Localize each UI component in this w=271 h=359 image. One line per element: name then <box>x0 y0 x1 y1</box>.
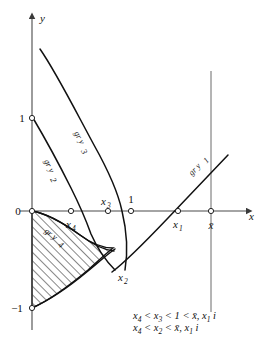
curve-tag-gr-y1: gr y 1 <box>186 154 211 180</box>
svg-text:1: 1 <box>201 155 211 165</box>
curve-tag-gr-y3: gr y 3 <box>70 129 92 155</box>
svg-text:x: x <box>65 218 71 230</box>
point-x2-label: x 2 <box>117 271 128 286</box>
svg-text:4: 4 <box>72 224 76 233</box>
marker-origin <box>29 208 34 213</box>
svg-text:1: 1 <box>179 224 183 233</box>
svg-text:gr y: gr y <box>72 129 87 146</box>
y-axis-label: y <box>39 12 45 24</box>
y-tick-minus-one-label: −1 <box>11 302 23 314</box>
svg-text:2: 2 <box>48 176 59 185</box>
svg-text:x: x <box>100 195 106 207</box>
svg-text:3: 3 <box>106 201 111 210</box>
marker-y-minus-one <box>29 305 34 310</box>
origin-label: 0 <box>15 205 21 217</box>
figure-canvas: y x 0 1 −1 x 4 x 3 1 x 1 x̄ x 2 gr y 3 g… <box>0 0 271 359</box>
x-tick-xbar-label: x̄ <box>208 219 214 231</box>
curve-tag-gr-y2: gr y 2 <box>40 157 62 184</box>
marker-x4 <box>68 208 73 213</box>
svg-text:3: 3 <box>78 146 89 155</box>
svg-text:2: 2 <box>124 277 128 286</box>
marker-one-on-x <box>128 208 133 213</box>
math-figure: y x 0 1 −1 x 4 x 3 1 x 1 x̄ x 2 gr y 3 g… <box>0 0 271 359</box>
x-tick-one-label: 1 <box>128 193 134 205</box>
x-tick-x3-label: x 3 <box>100 195 111 210</box>
svg-text:x: x <box>117 271 123 283</box>
marker-xbar <box>208 208 213 213</box>
x-tick-x1-label: x 1 <box>172 218 183 233</box>
svg-text:gr y: gr y <box>42 157 57 174</box>
svg-text:gr y: gr y <box>186 161 203 178</box>
inequality-line-2: x4 < x2 < x̄, x1 i <box>132 322 199 336</box>
marker-x1 <box>175 208 180 213</box>
marker-y-one <box>29 115 34 120</box>
x-axis-label: x <box>248 210 254 222</box>
y-tick-one-label: 1 <box>19 112 25 124</box>
svg-text:x: x <box>172 218 178 230</box>
svg-text:x4 < x2 < x̄, x1 i: x4 < x2 < x̄, x1 i <box>132 322 199 336</box>
